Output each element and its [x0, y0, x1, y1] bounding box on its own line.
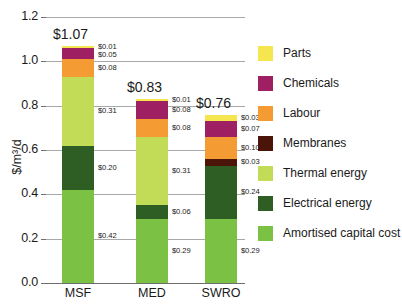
y-tick-mark: [41, 17, 46, 18]
bar-segment: [136, 205, 168, 218]
legend-item: Chemicals: [258, 68, 400, 98]
bar-segment: [136, 101, 168, 119]
x-tick-label-msf: MSF: [43, 286, 113, 300]
bar-segment: [205, 166, 237, 219]
segment-value-label: $0.10: [241, 143, 260, 152]
bar-segment: [205, 115, 237, 122]
bar-med: [136, 17, 168, 283]
bar-total-label: $0.76: [196, 95, 231, 111]
y-tick-label: 0.0: [2, 275, 38, 289]
y-tick-label: 1.0: [2, 53, 38, 67]
y-tick-label: 1.2: [2, 9, 38, 23]
bar-segment: [62, 77, 94, 146]
legend-swatch-icon: [258, 136, 273, 151]
segment-value-label: $0.08: [172, 105, 191, 114]
bar-segment: [205, 219, 237, 283]
legend-item: Electrical energy: [258, 188, 400, 218]
bar-segment: [136, 219, 168, 283]
legend-item-label: Parts: [283, 46, 311, 60]
legend-item-label: Membranes: [283, 136, 346, 150]
bar-segment: [62, 190, 94, 283]
bar-segment: [205, 121, 237, 137]
segment-value-label: $0.03: [241, 157, 260, 166]
bar-segment: [136, 137, 168, 206]
bar-swro: [205, 17, 237, 283]
bar-msf: [62, 17, 94, 283]
legend-swatch-icon: [258, 166, 273, 181]
legend-swatch-icon: [258, 226, 273, 241]
segment-value-label: $0.42: [98, 231, 117, 240]
legend-item-label: Electrical energy: [283, 196, 372, 210]
bar-segment: [62, 59, 94, 77]
legend-item-label: Amortised capital cost: [283, 226, 400, 240]
segment-value-label: $0.08: [98, 63, 117, 72]
x-tick-label-med: MED: [117, 286, 187, 300]
segment-value-label: $0.08: [172, 123, 191, 132]
segment-value-label: $0.29: [241, 246, 260, 255]
y-axis-title: $/m³/d: [10, 122, 24, 192]
legend-item: Membranes: [258, 128, 400, 158]
segment-value-label: $0.03: [241, 113, 260, 122]
segment-value-label: $0.24: [241, 187, 260, 196]
segment-value-label: $0.05: [98, 50, 117, 59]
x-tick-label-swro: SWRO: [186, 286, 256, 300]
legend-item-label: Labour: [283, 106, 320, 120]
segment-value-label: $0.07: [241, 124, 260, 133]
chart-legend: PartsChemicalsLabourMembranesThermal ene…: [258, 38, 400, 248]
legend-swatch-icon: [258, 196, 273, 211]
segment-value-label: $0.29: [172, 246, 191, 255]
segment-value-label: $0.01: [172, 95, 191, 104]
segment-value-label: $0.20: [98, 163, 117, 172]
y-tick-mark: [41, 239, 46, 240]
y-tick-mark: [41, 194, 46, 195]
legend-item-label: Chemicals: [283, 76, 339, 90]
y-tick-mark: [41, 61, 46, 62]
bar-total-label: $1.07: [53, 26, 88, 42]
legend-item: Parts: [258, 38, 400, 68]
y-tick-label: 0.2: [2, 231, 38, 245]
bar-segment: [205, 159, 237, 166]
bar-segment: [62, 46, 94, 48]
segment-value-label: $0.06: [172, 207, 191, 216]
bar-segment: [136, 99, 168, 101]
y-tick-mark: [41, 150, 46, 151]
segment-value-label: $0.31: [172, 166, 191, 175]
legend-swatch-icon: [258, 106, 273, 121]
y-tick-label: 0.8: [2, 98, 38, 112]
legend-item: Thermal energy: [258, 158, 400, 188]
legend-item: Labour: [258, 98, 400, 128]
bar-segment: [205, 137, 237, 159]
legend-swatch-icon: [258, 76, 273, 91]
legend-item-label: Thermal energy: [283, 166, 367, 180]
bar-total-label: $0.83: [127, 79, 162, 95]
bar-segment: [136, 119, 168, 137]
x-axis-line: [46, 283, 245, 284]
segment-value-label: $0.31: [98, 106, 117, 115]
legend-item: Amortised capital cost: [258, 218, 400, 248]
y-tick-mark: [41, 283, 46, 284]
y-tick-mark: [41, 106, 46, 107]
bar-segment: [62, 48, 94, 59]
legend-swatch-icon: [258, 46, 273, 61]
bar-segment: [62, 146, 94, 190]
stacked-bar-chart: 0.00.20.40.60.81.01.2 $/m³/d $1.07$0.01$…: [0, 0, 402, 306]
